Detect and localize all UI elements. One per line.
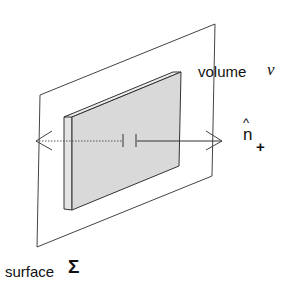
slab-side [64, 114, 72, 210]
normal-label: n [243, 125, 252, 145]
surface-symbol: Σ [68, 256, 79, 278]
arrow-left-icon [36, 131, 52, 150]
diagram: volume ν ^ n + surface Σ [0, 0, 303, 295]
volume-label: volume [198, 63, 246, 80]
volume-symbol: ν [267, 60, 275, 80]
normal-subscript: + [256, 138, 265, 155]
surface-label: surface [5, 263, 54, 280]
